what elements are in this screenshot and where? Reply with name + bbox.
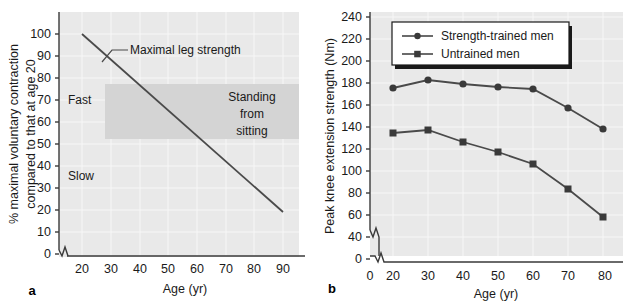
panel-b-letter: b: [328, 281, 336, 296]
panel-b-ytick-100: 100: [341, 164, 362, 178]
panel-b-xtick-60: 60: [526, 269, 540, 283]
panel-a-ytick-20: 20: [37, 203, 51, 217]
figure-container: 100 90 80 70 60 50 40 30 20 10 0 20 30 4…: [0, 0, 623, 303]
panel-a-xtick-50: 50: [161, 262, 175, 276]
panel-b: 240 220 200 180 160 140 120 100 80 60 40…: [320, 0, 623, 303]
fast-region-label: Fast: [68, 93, 92, 107]
panel-a-xtick-40: 40: [133, 262, 147, 276]
standing-from-sitting-label-line3: sitting: [236, 124, 267, 138]
panel-a-ytick-70: 70: [37, 93, 51, 107]
panel-b-ytick-200: 200: [341, 54, 362, 68]
panel-b-xtick-20: 20: [386, 269, 400, 283]
panel-b-xtick-50: 50: [491, 269, 505, 283]
panel-a-y-axis-title-line2: compared to that at age 20: [24, 59, 38, 208]
panel-a-xtick-80: 80: [247, 262, 261, 276]
standing-from-sitting-label-line1: Standing: [228, 90, 275, 104]
legend-circle-marker-icon: [414, 33, 420, 39]
standing-from-sitting-label-line2: from: [240, 107, 264, 121]
slow-region-label: Slow: [68, 169, 94, 183]
panel-a-x-axis-title: Age (yr): [163, 282, 207, 296]
panel-a-ytick-10: 10: [37, 225, 51, 239]
panel-b-ytick-160: 160: [341, 98, 362, 112]
panel-b-ytick-220: 220: [341, 32, 362, 46]
panel-a-ytick-30: 30: [37, 181, 51, 195]
panel-a-letter: a: [28, 283, 36, 298]
panel-a-xtick-70: 70: [219, 262, 233, 276]
panel-a-xtick-90: 90: [276, 262, 290, 276]
panel-a-ytick-50: 50: [37, 137, 51, 151]
panel-a-ytick-100: 100: [30, 27, 51, 41]
panel-a-chart: 100 90 80 70 60 50 40 30 20 10 0 20 30 4…: [0, 0, 320, 303]
panel-b-ytick-0: 0: [355, 252, 362, 266]
panel-a-xtick-60: 60: [190, 262, 204, 276]
panel-a-ytick-40: 40: [37, 159, 51, 173]
panel-b-ytick-180: 180: [341, 76, 362, 90]
panel-a-ytick-90: 90: [37, 49, 51, 63]
panel-a-xtick-30: 30: [104, 262, 118, 276]
panel-a-y-axis-title-line1: % maximal voluntary contraction: [7, 44, 21, 224]
panel-a-ytick-60: 60: [37, 115, 51, 129]
panel-b-ytick-80: 80: [348, 186, 362, 200]
maximal-leg-strength-label: Maximal leg strength: [130, 43, 241, 57]
panel-b-ytick-40: 40: [348, 230, 362, 244]
panel-a: 100 90 80 70 60 50 40 30 20 10 0 20 30 4…: [0, 0, 320, 303]
panel-b-xtick-70: 70: [561, 269, 575, 283]
legend-label-strength-trained-men: Strength-trained men: [441, 29, 554, 43]
panel-a-ytick-80: 80: [37, 71, 51, 85]
panel-b-xtick-0: 0: [367, 269, 374, 283]
panel-a-xtick-20: 20: [75, 262, 89, 276]
panel-b-x-axis-title: Age (yr): [474, 287, 518, 301]
panel-b-legend[interactable]: Strength-trained men Untrained men: [392, 22, 572, 69]
panel-b-xtick-40: 40: [456, 269, 470, 283]
panel-b-xtick-30: 30: [421, 269, 435, 283]
panel-a-ytick-0: 0: [44, 247, 51, 261]
panel-b-ytick-120: 120: [341, 142, 362, 156]
panel-b-y-axis-title: Peak knee extension strength (Nm): [323, 38, 337, 234]
panel-b-ytick-60: 60: [348, 208, 362, 222]
panel-b-ytick-140: 140: [341, 120, 362, 134]
panel-b-chart: 240 220 200 180 160 140 120 100 80 60 40…: [320, 0, 623, 303]
panel-b-xtick-80: 80: [598, 269, 612, 283]
legend-label-untrained-men: Untrained men: [441, 47, 520, 61]
legend-square-marker-icon: [414, 51, 421, 58]
panel-b-ytick-240: 240: [341, 10, 362, 24]
